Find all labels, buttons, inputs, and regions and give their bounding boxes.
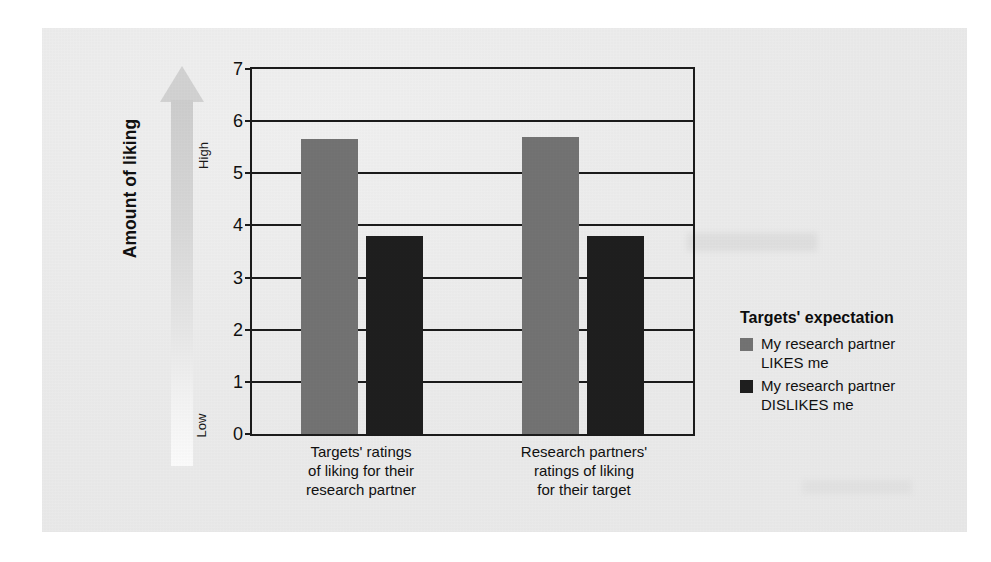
y-axis-tick bbox=[245, 68, 252, 70]
bar bbox=[522, 137, 579, 434]
legend-line: DISLIKES me bbox=[761, 396, 854, 413]
y-axis-tick-label: 1 bbox=[233, 371, 243, 392]
y-axis-tick bbox=[245, 329, 252, 331]
y-axis-tick-label: 7 bbox=[233, 59, 243, 80]
legend-item-label: My research partner DISLIKES me bbox=[761, 376, 895, 414]
category-line: of liking for their bbox=[250, 461, 472, 480]
y-axis-tick bbox=[245, 381, 252, 383]
category-line: for their target bbox=[473, 480, 695, 499]
gridline bbox=[252, 120, 693, 122]
legend-line: My research partner bbox=[761, 377, 895, 394]
arrow-label-high: High bbox=[196, 131, 211, 181]
y-axis-tick bbox=[245, 433, 252, 435]
legend-title: Targets' expectation bbox=[740, 309, 955, 327]
y-axis-tick bbox=[245, 120, 252, 122]
y-axis-tick-label: 5 bbox=[233, 163, 243, 184]
bar bbox=[366, 236, 423, 434]
y-axis-tick-label: 2 bbox=[233, 319, 243, 340]
y-axis-title: Amount of liking bbox=[120, 79, 141, 299]
category-line: Targets' ratings bbox=[250, 442, 472, 461]
chart-legend: Targets' expectation My research partner… bbox=[740, 309, 955, 418]
legend-swatch-icon bbox=[740, 380, 753, 393]
legend-line: My research partner bbox=[761, 335, 895, 352]
legend-item-label: My research partner LIKES me bbox=[761, 334, 895, 372]
arrow-label-low: Low bbox=[194, 401, 209, 451]
liking-direction-arrow: High Low bbox=[160, 66, 204, 466]
plot-area: 76543210 bbox=[250, 67, 695, 436]
y-axis-tick-label: 4 bbox=[233, 215, 243, 236]
bar bbox=[301, 139, 358, 434]
y-axis-tick-label: 0 bbox=[233, 424, 243, 445]
category-line: ratings of liking bbox=[473, 461, 695, 480]
arrow-head-icon bbox=[160, 66, 204, 102]
y-axis-tick-label: 6 bbox=[233, 111, 243, 132]
legend-line: LIKES me bbox=[761, 354, 829, 371]
bar bbox=[587, 236, 644, 434]
scan-smudge bbox=[802, 480, 912, 494]
legend-item: My research partner LIKES me bbox=[740, 334, 955, 372]
x-axis-category-label: Targets' ratings of liking for their res… bbox=[250, 442, 472, 499]
y-axis-tick bbox=[245, 277, 252, 279]
x-axis-category-label: Research partners' ratings of liking for… bbox=[473, 442, 695, 499]
scanned-page: Amount of liking High Low 76543210 Targe… bbox=[42, 28, 967, 532]
y-axis-tick bbox=[245, 172, 252, 174]
legend-item: My research partner DISLIKES me bbox=[740, 376, 955, 414]
scan-smudge bbox=[687, 233, 817, 251]
arrow-shaft bbox=[171, 100, 193, 466]
legend-swatch-icon bbox=[740, 338, 753, 351]
category-line: Research partners' bbox=[473, 442, 695, 461]
y-axis-tick bbox=[245, 224, 252, 226]
category-line: research partner bbox=[250, 480, 472, 499]
y-axis-tick-label: 3 bbox=[233, 267, 243, 288]
